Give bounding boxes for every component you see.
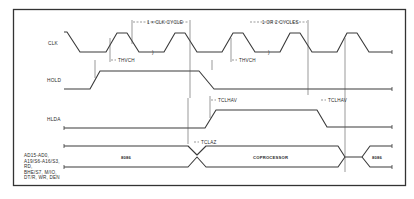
bus-line-4: BHE/S7, M/IO, [24, 170, 57, 175]
label-thvch-2: THVCH [239, 58, 256, 63]
timing-diagram: CLK HOLD HLDA AD15-AD0, A19/S6-A16/S3, R… [0, 0, 414, 199]
label-clk-cycle: 1 × CLK CYCLE [147, 20, 183, 25]
signal-label-hlda: HLDA [47, 117, 61, 122]
clk-waveform [64, 32, 392, 52]
label-tclhav-1: TCLHAV [218, 98, 238, 103]
bus-phase-8086-first: 8086 [121, 155, 132, 160]
bus-line-1: AD15-AD0, [24, 153, 49, 158]
signal-label-bus: AD15-AD0, A19/S6-A16/S3, RD, BHE/S7, M/I… [24, 153, 60, 180]
bus-phase-coprocessor: COPROCESSOR [253, 155, 288, 160]
hold-waveform [64, 71, 392, 89]
label-tclaz: TCLAZ [201, 140, 217, 145]
bus-phase-8086-last: 8086 [372, 155, 383, 160]
bus-line-5: DT/R, WR, DEN [24, 175, 60, 180]
bus-line-2: A19/S6-A16/S3, [24, 159, 60, 164]
signal-label-clk: CLK [48, 41, 59, 46]
label-cycles: 1 OR 2 CYCLES [262, 20, 299, 25]
label-thvch-1: THVCH [118, 58, 135, 63]
clk-break-1: ) [152, 50, 154, 55]
bus-line-3: RD, [24, 164, 33, 169]
clk-break-2: ) [268, 50, 270, 55]
label-tclhav-2: TCLHAV [328, 98, 348, 103]
bus-waveform [64, 144, 392, 169]
hlda-waveform [64, 110, 392, 128]
signal-label-hold: HOLD [47, 78, 61, 83]
